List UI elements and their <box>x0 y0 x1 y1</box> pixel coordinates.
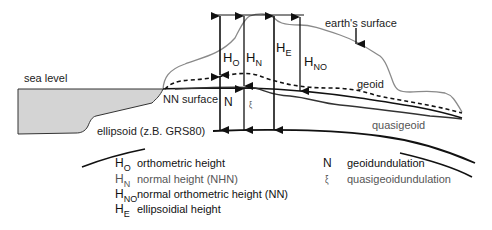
quasigeoid-label: quasigeoid <box>372 119 425 131</box>
hno-symbol: HNO <box>304 55 327 74</box>
n-symbol: N <box>224 96 233 109</box>
earths-surface-label: earth's surface <box>325 17 397 29</box>
sea-level-label: sea level <box>24 72 67 84</box>
xi-symbol: ξ <box>249 96 252 111</box>
geoid-label: geoid <box>357 78 384 90</box>
nn-surface-label: NN surface <box>163 93 218 105</box>
ellipsoid-label: ellipsoid (z.B. GRS80) <box>97 125 205 137</box>
he-symbol: HE <box>276 41 291 60</box>
ho-symbol: HO <box>223 51 239 70</box>
hn-symbol: HN <box>246 51 262 70</box>
ellipsoid-line <box>213 130 475 163</box>
earth-curvature-arc <box>82 149 145 167</box>
